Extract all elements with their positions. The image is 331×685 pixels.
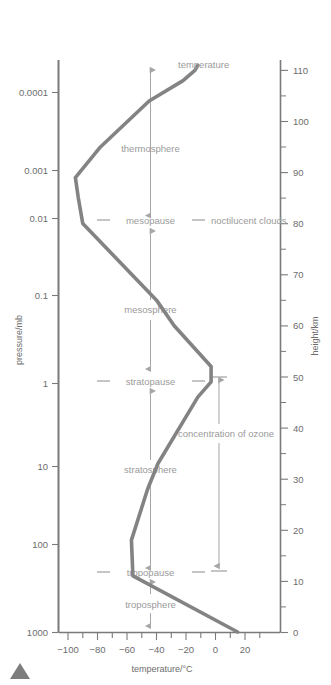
height-tick-label: 10 — [293, 576, 304, 587]
boundary-tropopause: tropopause — [97, 567, 205, 578]
height-axis-title: height/km — [310, 316, 320, 355]
pressure-tick-label: 10 — [37, 461, 48, 472]
temperature-tick-label: −60 — [119, 644, 135, 655]
height-tick-label: 20 — [293, 525, 304, 536]
annotation-noctilucent-clouds: noctilucent clouds — [211, 215, 287, 226]
height-tick-label: 90 — [293, 167, 304, 178]
temperature-tick-label: 0 — [213, 644, 218, 655]
height-tick-label: 100 — [293, 116, 309, 127]
atmosphere-temperature-profile-figure: 0.0001 0.001 0.01 0.1 1 10 100 1000 pres… — [0, 0, 331, 685]
height-tick-label: 80 — [293, 218, 304, 229]
height-tick-label: 30 — [293, 474, 304, 485]
height-tick-labels: 0 10 20 30 40 50 60 70 80 90 100 110 — [293, 65, 309, 638]
height-tick-label: 0 — [293, 627, 298, 638]
pressure-tick-label: 0.001 — [24, 165, 48, 176]
boundary-label-stratopause: stratopause — [126, 376, 176, 387]
temperature-tick-label: 20 — [240, 644, 251, 655]
layer-label-thermosphere: thermosphere — [121, 143, 180, 154]
layer-label-stratosphere: stratosphere — [124, 464, 177, 475]
height-tick-label: 70 — [293, 269, 304, 280]
temperature-axis-title: temperature/°C — [131, 664, 193, 674]
pressure-tick-label: 100 — [32, 539, 48, 550]
temperature-ticks — [68, 633, 260, 641]
temperature-tick-labels: −100 −80 −60 −40 −20 0 20 — [57, 644, 250, 655]
layer-thermosphere: thermosphere — [121, 70, 180, 216]
layer-mesosphere: mesosphere — [124, 231, 176, 369]
pressure-tick-label: 1000 — [27, 627, 48, 638]
boundary-label-mesopause: mesopause — [126, 215, 175, 226]
annotation-label-concentration-of-ozone: concentration of ozone — [178, 428, 274, 439]
temperature-tick-label: −20 — [178, 644, 194, 655]
boundary-stratopause: stratopause — [97, 376, 205, 387]
temperature-tick-label: −40 — [148, 644, 164, 655]
temperature-tick-label: −100 — [57, 644, 78, 655]
pressure-tick-label: 0.01 — [30, 213, 49, 224]
height-tick-label: 50 — [293, 372, 304, 383]
pressure-ticks — [52, 93, 59, 633]
layer-label-troposphere: troposphere — [125, 599, 176, 610]
pressure-tick-label: 0.1 — [35, 290, 48, 301]
pressure-axis-title: pressure/mb — [14, 315, 24, 365]
layer-troposphere: troposphere — [125, 582, 176, 626]
height-tick-label: 40 — [293, 423, 304, 434]
pressure-tick-label: 1 — [43, 378, 48, 389]
pressure-tick-label: 0.0001 — [19, 87, 48, 98]
chart-svg: 0.0001 0.001 0.01 0.1 1 10 100 1000 pres… — [0, 0, 331, 685]
height-tick-label: 110 — [293, 65, 308, 76]
layer-label-mesosphere: mesosphere — [124, 304, 176, 315]
boundary-mesopause: mesopause — [97, 215, 205, 226]
height-tick-label: 60 — [293, 320, 304, 331]
caption-triangle-marker — [10, 663, 30, 679]
annotation-label-noctilucent-clouds: noctilucent clouds — [211, 215, 287, 226]
series-label-temperature: temperature — [178, 59, 229, 70]
temperature-tick-label: −80 — [89, 644, 105, 655]
